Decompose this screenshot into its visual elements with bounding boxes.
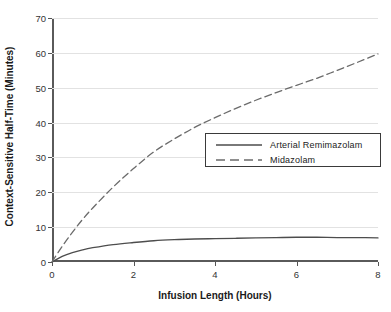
y-tick-label: 30: [35, 152, 46, 163]
legend-item-midazolam: Midazolam: [206, 153, 380, 166]
y-tick-label: 60: [35, 47, 46, 58]
legend-label-arterial-remimazolam: Arterial Remimazolam: [270, 140, 363, 150]
y-tick-label: 70: [35, 13, 46, 24]
x-axis-title: Infusion Length (Hours): [52, 290, 378, 301]
y-tick-label: 40: [35, 117, 46, 128]
x-tick-mark: [378, 262, 379, 266]
legend-item-arterial-remimazolam: Arterial Remimazolam: [206, 138, 380, 151]
chart-legend: Arterial Remimazolam Midazolam: [205, 133, 381, 167]
x-tick-label: 2: [131, 269, 136, 280]
x-tick-label: 6: [294, 269, 299, 280]
chart-figure: Context-Sensitive Half-Time (Minutes) 01…: [0, 0, 391, 312]
y-axis-title: Context-Sensitive Half-Time (Minutes): [5, 46, 16, 226]
y-axis-title-container: Context-Sensitive Half-Time (Minutes): [0, 0, 20, 272]
x-tick-mark: [215, 262, 216, 266]
x-tick-mark: [297, 262, 298, 266]
x-tick-label: 8: [375, 269, 380, 280]
y-tick-label: 20: [35, 187, 46, 198]
y-tick-label: 0: [41, 257, 46, 268]
x-tick-label: 0: [49, 269, 54, 280]
series-line-arterial-remimazolam: [52, 237, 378, 262]
legend-solid-line-icon: [216, 140, 262, 150]
legend-dashed-line-icon: [216, 155, 262, 165]
y-tick-label: 50: [35, 82, 46, 93]
legend-label-midazolam: Midazolam: [270, 155, 315, 165]
x-tick-mark: [134, 262, 135, 266]
y-tick-label: 10: [35, 222, 46, 233]
x-tick-label: 4: [212, 269, 217, 280]
